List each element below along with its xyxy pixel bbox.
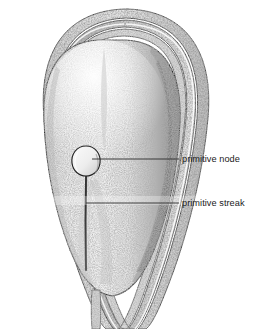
primitive-node-body — [72, 146, 100, 176]
embryo-illustration: primitive node primitive streak — [0, 0, 253, 329]
label-primitive-node: primitive node — [182, 154, 240, 164]
figure-root: primitive node primitive streak — [0, 0, 253, 329]
label-primitive-streak: primitive streak — [182, 198, 245, 208]
primitive-streak-groove — [86, 172, 88, 270]
tail-stalk — [91, 290, 101, 329]
